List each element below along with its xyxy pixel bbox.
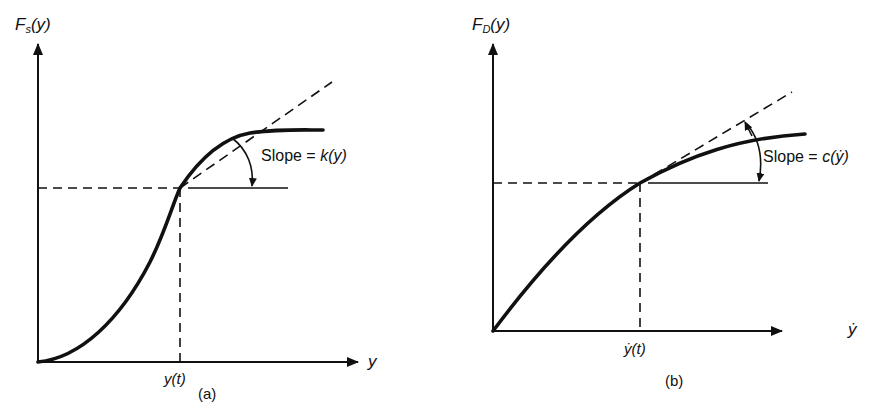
panel-b	[493, 44, 805, 331]
panel-b-slope-prefix: Slope =	[763, 148, 822, 165]
panel-b-y-axis-label: FD(y)	[472, 15, 510, 35]
panel-a-slope-label: Slope = k(y)	[261, 147, 347, 165]
panel-b-slope-angle-arc	[747, 124, 761, 181]
panel-a-x-tick-label: y(t)	[164, 370, 186, 387]
panel-a-slope-prefix: Slope =	[261, 147, 320, 164]
panel-b-caption: (b)	[665, 372, 683, 389]
panel-a-slope-func: k(y)	[320, 147, 347, 164]
panel-a-y-label-arg: (y)	[31, 15, 51, 34]
panel-b-x-axis-label: ẏ	[848, 320, 857, 340]
panel-a	[38, 44, 358, 362]
diagram-canvas	[0, 0, 870, 411]
panel-b-damping-curve	[493, 134, 805, 331]
panel-a-tangent-dashed-line	[180, 82, 332, 188]
panel-a-y-label-main: F	[15, 15, 25, 34]
panel-b-slope-func: c(ẏ)	[822, 148, 849, 165]
panel-a-y-axis-label: Fs(y)	[15, 15, 51, 35]
panel-b-x-tick-label: ẏ(t)	[624, 340, 646, 357]
panel-b-y-label-main: F	[472, 15, 482, 34]
panel-b-y-label-arg: (y)	[490, 15, 510, 34]
panel-a-caption: (a)	[198, 385, 216, 402]
panel-a-slope-angle-arc	[232, 138, 252, 186]
panel-a-x-axis-label: y	[368, 352, 377, 372]
panel-b-slope-label: Slope = c(ẏ)	[763, 148, 849, 166]
